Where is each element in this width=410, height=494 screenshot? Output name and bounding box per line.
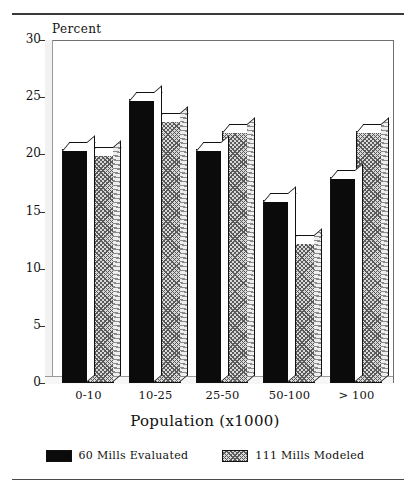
x-axis-tick-label: 10-25	[122, 388, 189, 402]
bar-group	[259, 40, 319, 383]
x-axis-tick-label: 0-10	[55, 388, 122, 402]
x-axis-tick-label: > 100	[323, 388, 390, 402]
legend-item: 111 Mills Modeled	[222, 449, 364, 462]
chart-plot-area	[46, 40, 394, 383]
y-axis-tick-label: 25	[26, 90, 46, 102]
chart-legend: 60 Mills Evaluated111 Mills Modeled	[0, 449, 410, 462]
bar-evaluated	[129, 99, 155, 383]
y-axis-tick-label: 30	[26, 33, 46, 45]
hatched-gray-swatch	[222, 450, 248, 462]
legend-item-label: 60 Mills Evaluated	[79, 449, 189, 462]
bar-group	[326, 40, 386, 383]
x-axis-tick-labels: 0-1010-2525-5050-100> 100	[46, 388, 394, 402]
bar-group	[192, 40, 252, 383]
bar-group	[58, 40, 118, 383]
bar-evaluated	[196, 149, 222, 383]
bar-groups	[46, 40, 394, 383]
y-axis-tick-label: 10	[26, 262, 46, 274]
x-axis-tick-label: 25-50	[189, 388, 256, 402]
x-axis-title: Population (x1000)	[0, 412, 410, 430]
bar-evaluated	[62, 149, 88, 383]
bar-evaluated	[330, 177, 356, 383]
bottom-divider-rule	[12, 479, 404, 480]
legend-item-label: 111 Mills Modeled	[255, 449, 364, 462]
y-axis-title: Percent	[52, 22, 102, 36]
top-divider-rule	[12, 13, 404, 15]
x-axis-tick-label: 50-100	[256, 388, 323, 402]
legend-item: 60 Mills Evaluated	[46, 449, 189, 462]
bar-group	[125, 40, 185, 383]
solid-black-swatch	[46, 450, 72, 462]
bar-evaluated	[263, 200, 289, 383]
y-axis-tick-label: 15	[26, 205, 46, 217]
y-axis-tick-label: 20	[26, 147, 46, 159]
